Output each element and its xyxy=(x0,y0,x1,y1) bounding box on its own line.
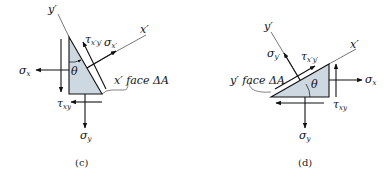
y-prime-face-label: y′ face ΔA xyxy=(229,74,285,87)
tau-xy-label: τxy xyxy=(333,98,348,112)
panel-d: y′ x′ θ σy′ τx′y′ σx τxy σy y′ face ΔA (… xyxy=(229,20,377,168)
sigma-yp-label: σy′ xyxy=(267,47,280,61)
tau-xpyp-label: τx′y′ xyxy=(85,33,103,47)
x-prime-axis xyxy=(329,49,356,64)
tau-xpyp-label: τx′y′ xyxy=(301,50,319,64)
sigma-y-label: σy xyxy=(80,129,93,143)
y-prime-label: y′ xyxy=(47,3,57,16)
theta-label: θ xyxy=(71,65,78,78)
caption-d: (d) xyxy=(298,157,312,168)
theta-label: θ xyxy=(311,78,318,91)
stress-transformation-diagram: y′ x′ θ σx τxy σy τx′y′ σx′ x′ face ΔA (… xyxy=(0,0,388,180)
x-prime-label: x′ xyxy=(140,23,149,36)
tau-xy-label: τxy xyxy=(57,97,72,111)
y-prime-axis xyxy=(58,14,69,37)
sigma-y-label: σy xyxy=(299,129,312,143)
x-prime-face-label: x′ face ΔA xyxy=(114,74,169,87)
sigma-xp-label: σx′ xyxy=(104,36,117,50)
caption-c: (c) xyxy=(75,157,89,168)
y-prime-label: y′ xyxy=(263,20,273,33)
sigma-x-label: σx xyxy=(19,64,31,78)
panel-c: y′ x′ θ σx τxy σy τx′y′ σx′ x′ face ΔA (… xyxy=(19,3,169,168)
x-prime-label: x′ xyxy=(350,38,359,51)
sigma-x-label: σx xyxy=(365,73,377,87)
